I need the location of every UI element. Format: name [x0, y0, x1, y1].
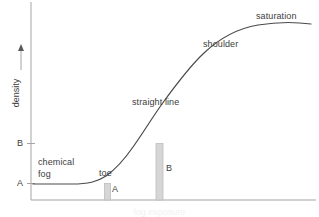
plot-canvas [0, 0, 319, 217]
x-axis-label: log exposure [0, 207, 319, 217]
annotation-chemical-fog-line2: fog [38, 168, 74, 180]
marker-bar-b-label: B [166, 163, 172, 173]
marker-bar-b [156, 144, 163, 201]
density-arrow-icon [18, 44, 24, 51]
marker-bar-a-label: A [112, 184, 118, 194]
annotation-toe: toe [99, 168, 112, 178]
annotation-chemical-fog-line1: chemical [38, 156, 74, 168]
y-axis-label: density [11, 63, 21, 123]
characteristic-curve-figure: density B A chemical fog toe A B straigh… [0, 0, 319, 217]
annotation-saturation: saturation [256, 11, 297, 21]
annotation-straight-line: straight line [132, 97, 179, 107]
annotation-shoulder: shoulder [203, 39, 238, 49]
annotation-chemical-fog: chemical fog [38, 156, 74, 180]
marker-bar-a [105, 184, 111, 201]
y-tick-label-a: A [17, 178, 23, 188]
y-tick-label-b: B [17, 138, 23, 148]
